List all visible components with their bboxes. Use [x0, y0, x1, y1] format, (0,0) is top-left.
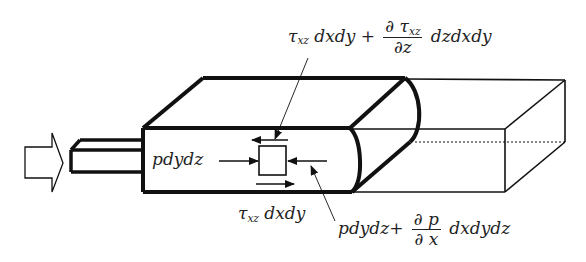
label-shear-bottom: τxz dxdy — [238, 205, 305, 223]
label-shear-top: τxz dxdy + ∂ τxz∂z dzdxdy — [288, 18, 492, 56]
label-pressure-right: pdydz+ ∂ p∂ x dxdydz — [338, 211, 510, 248]
fluid-element-square — [259, 146, 286, 175]
diagram-canvas: τxz dxdy + ∂ τxz∂z dzdxdy pdydz τxz dxdy… — [0, 0, 586, 262]
inflow-arrow-icon — [25, 133, 63, 192]
label-pressure-left: pdydz — [152, 151, 203, 168]
inlet-nozzle — [71, 140, 143, 172]
